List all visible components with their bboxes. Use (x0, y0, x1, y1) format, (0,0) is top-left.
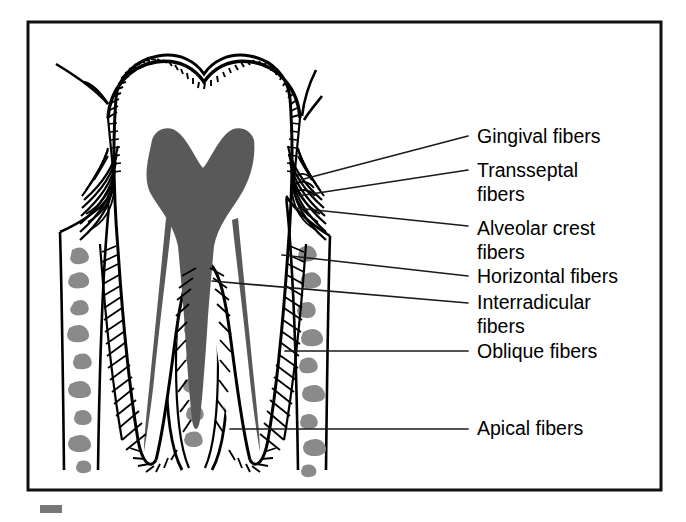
label-text-oblique-fibers-line1: Oblique fibers (477, 340, 598, 362)
label-apical-fibers: Apical fibers (477, 417, 583, 439)
label-text-alveolar-crest-fibers-line2: fibers (477, 241, 525, 263)
label-text-transseptal-fibers-line1: Transseptal (477, 159, 578, 181)
label-text-transseptal-fibers-line2: fibers (477, 183, 525, 205)
scan-artifact-mark (40, 505, 62, 513)
label-text-interradicular-fibers-line2: fibers (477, 315, 525, 337)
periodontal-fiber-diagram: Gingival fibersTransseptalfibersAlveolar… (0, 0, 686, 522)
label-text-apical-fibers-line1: Apical fibers (477, 417, 583, 439)
label-horizontal-fibers: Horizontal fibers (477, 265, 618, 287)
label-text-gingival-fibers-line1: Gingival fibers (477, 125, 601, 147)
label-text-interradicular-fibers-line1: Interradicular (477, 291, 591, 313)
label-oblique-fibers: Oblique fibers (477, 340, 598, 362)
label-gingival-fibers: Gingival fibers (477, 125, 601, 147)
label-text-alveolar-crest-fibers-line1: Alveolar crest (477, 217, 596, 239)
label-text-horizontal-fibers-line1: Horizontal fibers (477, 265, 618, 287)
